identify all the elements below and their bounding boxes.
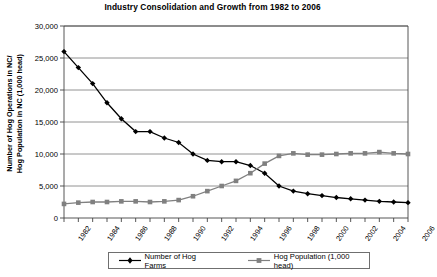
data-point [319, 193, 324, 198]
data-point [391, 151, 396, 156]
data-point [205, 158, 210, 163]
data-point [248, 171, 253, 176]
data-series-layer [61, 49, 410, 206]
x-axis-ticks [64, 218, 408, 222]
data-point [320, 152, 325, 157]
data-point [334, 152, 339, 157]
chart-legend: Number of Hog Farms Hog Population (1,00… [108, 252, 370, 269]
data-point [334, 195, 339, 200]
legend-item-hog-farms: Number of Hog Farms [119, 252, 218, 270]
data-point [277, 154, 282, 159]
data-point [305, 152, 310, 157]
data-point [362, 197, 367, 202]
data-point [62, 202, 67, 207]
data-point [291, 188, 296, 193]
data-point [162, 135, 167, 140]
data-point [76, 200, 81, 205]
data-point [291, 151, 296, 156]
data-point [377, 199, 382, 204]
data-point [348, 196, 353, 201]
data-point [162, 199, 167, 204]
data-point [248, 163, 253, 168]
data-point [133, 199, 138, 204]
data-point [176, 198, 181, 203]
data-point [262, 161, 267, 166]
data-point [377, 150, 382, 155]
series-square [62, 150, 411, 206]
legend-label-hog-population: Hog Population (1,000 head) [274, 252, 369, 270]
data-point [205, 189, 210, 194]
legend-item-hog-population: Hog Population (1,000 head) [248, 252, 369, 270]
data-point [105, 200, 110, 205]
data-point [234, 179, 239, 184]
data-point [305, 191, 310, 196]
data-point [191, 194, 196, 199]
data-point [363, 151, 368, 156]
data-point [348, 151, 353, 156]
data-point [90, 200, 95, 205]
legend-marker-square-icon [248, 256, 270, 265]
data-point [405, 200, 410, 205]
data-point [119, 199, 124, 204]
data-point [219, 159, 224, 164]
data-point [233, 159, 238, 164]
data-point [219, 184, 224, 189]
data-point [406, 152, 411, 157]
legend-marker-diamond-icon [119, 256, 141, 265]
data-point [391, 199, 396, 204]
legend-label-hog-farms: Number of Hog Farms [145, 252, 219, 270]
data-point [147, 129, 152, 134]
data-point [148, 200, 153, 205]
